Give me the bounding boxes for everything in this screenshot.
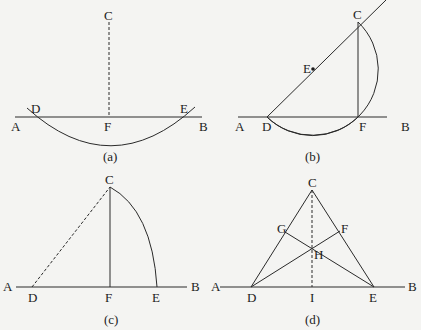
label-f: F xyxy=(359,119,366,134)
label-d: D xyxy=(262,119,271,134)
altitude-eg xyxy=(285,232,374,287)
label-e: E xyxy=(180,101,188,116)
label-c: C xyxy=(104,8,113,23)
caption-d: (d) xyxy=(305,312,320,327)
geometry-figure: C A D F E B (a) C E A D F B (b) C A D F … xyxy=(0,0,421,330)
label-b: B xyxy=(191,279,200,294)
label-c: C xyxy=(353,7,362,22)
caption-b: (b) xyxy=(305,149,320,164)
label-e: E xyxy=(152,290,160,305)
label-b: B xyxy=(401,119,410,134)
label-c: C xyxy=(105,172,114,187)
side-cd xyxy=(251,190,312,287)
dashed-line-dc xyxy=(32,187,110,287)
label-a: A xyxy=(211,279,221,294)
panel-c: C A D F E B (c) xyxy=(3,172,200,327)
panel-d: C G F H A D I E B (d) xyxy=(211,175,417,327)
label-a: A xyxy=(3,279,13,294)
label-f: F xyxy=(104,119,111,134)
label-g: G xyxy=(277,221,286,236)
label-b: B xyxy=(408,279,417,294)
label-d: D xyxy=(28,290,37,305)
point-e xyxy=(311,67,315,71)
label-i: I xyxy=(310,290,314,305)
label-f: F xyxy=(105,290,112,305)
circle-arc-bottom xyxy=(267,117,358,136)
label-e: E xyxy=(303,61,311,76)
label-e: E xyxy=(369,290,377,305)
label-c: C xyxy=(308,175,317,190)
line-dc-extended xyxy=(267,0,386,117)
label-d: D xyxy=(247,290,256,305)
caption-c: (c) xyxy=(104,312,118,327)
label-h: H xyxy=(314,247,323,262)
arc-ce xyxy=(110,187,157,287)
altitude-df xyxy=(251,231,340,287)
label-b: B xyxy=(199,119,208,134)
panel-a: C A D F E B (a) xyxy=(11,8,208,164)
label-a: A xyxy=(235,119,245,134)
label-f: F xyxy=(341,221,348,236)
label-d: D xyxy=(31,101,40,116)
panel-b: C E A D F B (b) xyxy=(235,0,410,164)
figure-svg: C A D F E B (a) C E A D F B (b) C A D F … xyxy=(0,0,421,330)
side-ce xyxy=(312,190,374,287)
label-a: A xyxy=(11,119,21,134)
caption-a: (a) xyxy=(103,149,117,164)
